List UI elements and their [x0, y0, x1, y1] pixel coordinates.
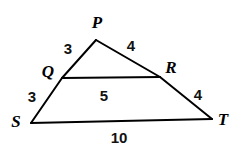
- vertex-label-P: P: [92, 14, 102, 31]
- segment-ST: [31, 119, 212, 123]
- vertex-label-T: T: [218, 111, 228, 128]
- measure-label-ST: 10: [111, 130, 128, 145]
- measure-label-QR: 5: [100, 88, 108, 103]
- vertex-label-S: S: [11, 113, 20, 130]
- segment-RT: [160, 77, 212, 119]
- measure-label-PR: 4: [127, 38, 135, 53]
- vertex-label-Q: Q: [42, 63, 54, 80]
- measure-label-RT: 4: [194, 87, 202, 102]
- segment-QR: [62, 77, 160, 78]
- measure-label-PQ: 3: [64, 41, 72, 56]
- vertex-label-R: R: [165, 59, 176, 76]
- measure-label-QS: 3: [28, 89, 36, 104]
- geometry-figure: P Q R S T 3 4 3 4 5 10: [0, 0, 234, 154]
